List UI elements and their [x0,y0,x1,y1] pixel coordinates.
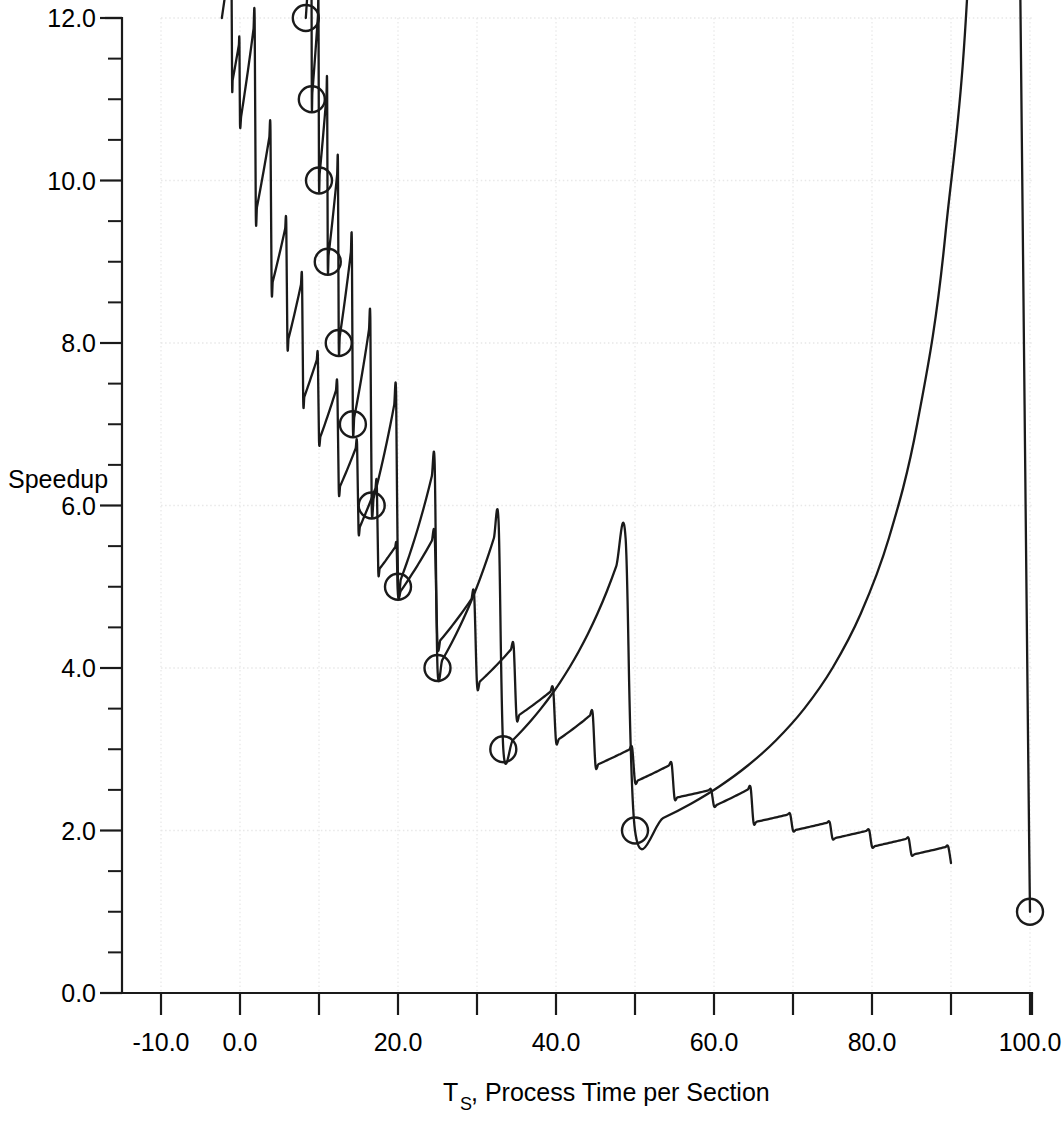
x-tick-label: 40.0 [532,1028,581,1056]
y-tick-label: 10.0 [47,167,96,195]
y-tick-label: 4.0 [61,654,96,682]
chart-background [0,0,1064,1122]
x-tick-label: 0.0 [223,1028,258,1056]
speedup-vs-process-time-chart: -10.00.020.040.060.080.0100.0 0.02.04.06… [0,0,1064,1122]
y-tick-label: 8.0 [61,329,96,357]
y-tick-label: 0.0 [61,979,96,1007]
x-tick-label: 100.0 [999,1028,1062,1056]
y-axis-title: Speedup [8,465,108,493]
x-tick-label: -10.0 [133,1028,190,1056]
y-tick-label: 6.0 [61,492,96,520]
x-tick-label: 20.0 [374,1028,423,1056]
chart-figure: -10.00.020.040.060.080.0100.0 0.02.04.06… [0,0,1064,1122]
x-axis-title-main: T [443,1078,458,1106]
x-tick-label: 80.0 [848,1028,897,1056]
x-tick-label: 60.0 [690,1028,739,1056]
y-tick-label: 12.0 [47,4,96,32]
x-axis-title-rest: , Process Time per Section [471,1078,770,1106]
y-tick-label: 2.0 [61,817,96,845]
